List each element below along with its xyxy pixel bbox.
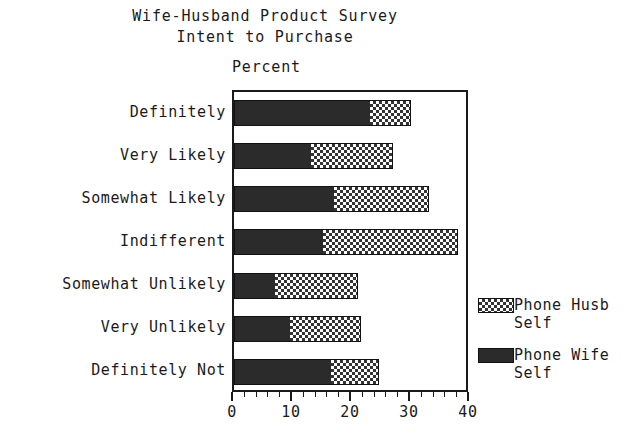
bar-segment-husb[interactable] — [334, 186, 428, 212]
bar-segment-husb[interactable] — [311, 143, 394, 169]
bar-row — [234, 178, 466, 221]
bar-row — [234, 351, 466, 394]
x-axis-tick-label: 40 — [458, 403, 477, 421]
chart-title-line-2: Intent to Purchase — [0, 27, 530, 48]
x-axis-tick-minor — [456, 392, 457, 397]
legend-label: Phone HusbSelf — [514, 296, 609, 332]
bar-segment-husb[interactable] — [290, 316, 361, 342]
x-axis-tick-minor — [385, 392, 386, 397]
bar-row — [234, 265, 466, 308]
y-axis-category-labels: DefinitelyVery LikelySomewhat LikelyIndi… — [0, 90, 226, 392]
stacked-bar[interactable] — [234, 100, 411, 126]
bar-segment-wife[interactable] — [234, 186, 334, 212]
plot-frame — [232, 90, 468, 392]
chart-title-block: Wife-Husband Product Survey Intent to Pu… — [0, 6, 530, 48]
y-axis-label: Indifferent — [2, 232, 226, 250]
stacked-bar[interactable] — [234, 273, 358, 299]
x-axis-tick-major — [408, 392, 410, 401]
legend-swatch-husb — [478, 298, 514, 313]
x-axis-tick-minor — [244, 392, 245, 397]
stacked-bar[interactable] — [234, 316, 361, 342]
y-axis-label: Somewhat Unlikely — [2, 275, 226, 293]
bar-segment-wife[interactable] — [234, 316, 290, 342]
y-axis-label: Somewhat Likely — [2, 189, 226, 207]
bar-segment-husb[interactable] — [275, 273, 358, 299]
x-axis-tick-major — [349, 392, 351, 401]
chart-root: Wife-Husband Product Survey Intent to Pu… — [0, 0, 643, 434]
x-axis-tick-minor — [444, 392, 445, 397]
y-axis-label: Definitely Not — [2, 361, 226, 379]
x-axis-tick-label: 30 — [399, 403, 418, 421]
x-axis-tick-minor — [397, 392, 398, 397]
stacked-bar[interactable] — [234, 186, 429, 212]
x-axis: 010203040 — [232, 392, 468, 432]
x-axis-tick-minor — [433, 392, 434, 397]
stacked-bar[interactable] — [234, 359, 379, 385]
y-axis-label: Very Likely — [2, 146, 226, 164]
x-axis-caption: Percent — [232, 58, 301, 76]
x-axis-tick-minor — [279, 392, 280, 397]
x-axis-tick-minor — [338, 392, 339, 397]
bar-segment-husb[interactable] — [323, 229, 459, 255]
x-axis-tick-minor — [362, 392, 363, 397]
x-axis-tick-major — [231, 392, 233, 401]
bar-segment-wife[interactable] — [234, 229, 323, 255]
x-axis-tick-minor — [326, 392, 327, 397]
legend-label: Phone WifeSelf — [514, 346, 609, 382]
bar-row — [234, 135, 466, 178]
x-axis-tick-major — [290, 392, 292, 401]
y-axis-label: Definitely — [2, 103, 226, 121]
bar-segment-husb[interactable] — [370, 100, 411, 126]
legend-entry[interactable]: Phone WifeSelf — [478, 346, 609, 382]
plot-inner — [234, 92, 466, 390]
bar-row — [234, 308, 466, 351]
legend-swatch-wife — [478, 348, 514, 363]
x-axis-tick-minor — [267, 392, 268, 397]
x-axis-tick-minor — [374, 392, 375, 397]
x-axis-tick-label: 20 — [340, 403, 359, 421]
bar-row — [234, 221, 466, 264]
y-axis-label: Very Unlikely — [2, 318, 226, 336]
x-axis-tick-minor — [421, 392, 422, 397]
bar-segment-husb[interactable] — [331, 359, 378, 385]
bar-segment-wife[interactable] — [234, 359, 331, 385]
legend-label-sub: Self — [514, 314, 609, 332]
x-axis-tick-minor — [303, 392, 304, 397]
x-axis-tick-major — [467, 392, 469, 401]
legend-label-main: Phone Wife — [514, 346, 609, 364]
bar-segment-wife[interactable] — [234, 273, 275, 299]
stacked-bar[interactable] — [234, 229, 458, 255]
legend-entry[interactable]: Phone HusbSelf — [478, 296, 609, 332]
legend-label-sub: Self — [514, 364, 609, 382]
bar-segment-wife[interactable] — [234, 143, 311, 169]
chart-title-line-1: Wife-Husband Product Survey — [0, 6, 530, 27]
x-axis-tick-label: 0 — [227, 403, 237, 421]
x-axis-tick-label: 10 — [281, 403, 300, 421]
x-axis-tick-minor — [256, 392, 257, 397]
bar-segment-wife[interactable] — [234, 100, 370, 126]
legend-label-main: Phone Husb — [514, 296, 609, 314]
bar-row — [234, 92, 466, 135]
x-axis-tick-minor — [315, 392, 316, 397]
stacked-bar[interactable] — [234, 143, 393, 169]
